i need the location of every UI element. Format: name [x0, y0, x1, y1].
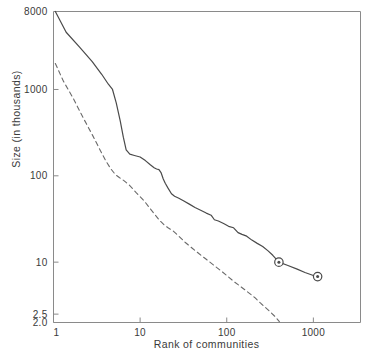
data-series-group [55, 12, 317, 322]
y-axis-title-wrapper: Size (in thousands) [10, 54, 28, 184]
y-tick-label: 8000 [24, 6, 48, 17]
y-tick-label: 10 [36, 257, 48, 268]
x-tick-label: 100 [218, 327, 236, 338]
x-axis-ticks: 1101001000 [54, 318, 326, 338]
x-tick-label: 1000 [302, 327, 326, 338]
figure-container: 1101001000 80001000100102.52.0 Size (in … [0, 0, 372, 358]
x-tick-label: 10 [134, 327, 146, 338]
y-tick-label: 100 [30, 170, 48, 181]
chart-canvas: 1101001000 80001000100102.52.0 [0, 0, 372, 358]
y-axis-title: Size (in thousands) [10, 54, 22, 184]
x-tick-label: 1 [54, 327, 60, 338]
series-line-lower-dashed-curve [55, 63, 279, 321]
y-tick-label: 2.0 [33, 317, 48, 328]
series-line-upper-solid-curve [55, 12, 317, 277]
x-axis-title: Rank of communities [53, 338, 360, 350]
